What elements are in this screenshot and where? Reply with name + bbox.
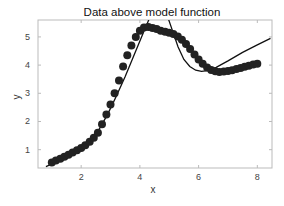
x-tick-label: 8: [255, 172, 260, 182]
data-point: [253, 60, 261, 68]
data-point: [115, 77, 123, 85]
chart-title: Data above model function: [84, 6, 221, 18]
x-tick-label: 4: [137, 172, 142, 182]
y-tick-label: 2: [25, 116, 30, 126]
plot-frame: [38, 20, 272, 168]
plot-area: [46, 6, 271, 167]
data-point: [127, 41, 135, 49]
y-axis-label: y: [11, 95, 22, 100]
y-tick-label: 3: [25, 88, 30, 98]
x-tick-label: 2: [79, 172, 84, 182]
y-axis: 12345: [25, 32, 272, 155]
data-point: [119, 63, 127, 71]
chart: Data above model function 2468 12345 x y: [0, 0, 284, 206]
y-tick-label: 4: [25, 60, 30, 70]
x-axis: 2468: [79, 20, 260, 182]
y-tick-label: 5: [25, 32, 30, 42]
data-point: [102, 110, 110, 118]
x-tick-label: 6: [196, 172, 201, 182]
data-point: [111, 89, 119, 97]
data-point: [98, 120, 106, 128]
data-point: [94, 129, 102, 137]
data-point: [107, 101, 115, 109]
y-tick-label: 1: [25, 145, 30, 155]
data-point: [123, 51, 131, 59]
x-axis-label: x: [151, 184, 156, 195]
